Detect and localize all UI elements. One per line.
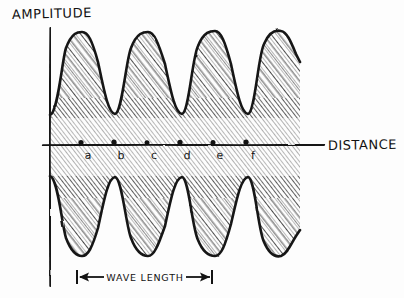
axis-point-dot-c bbox=[145, 140, 150, 145]
lower-wave-shading bbox=[48, 146, 304, 268]
x-axis-line bbox=[43, 145, 324, 146]
axis-point-dot-f bbox=[243, 140, 248, 145]
axis-point-dot-b bbox=[111, 140, 116, 145]
upper-wave-shading bbox=[48, 28, 304, 150]
axis-point-dot-e bbox=[211, 140, 216, 145]
x-axis-label: DISTANCE bbox=[328, 137, 397, 153]
axis-point-dot-a bbox=[78, 140, 83, 145]
wavelength-label: WAVE LENGTH bbox=[106, 272, 183, 283]
y-axis-line bbox=[50, 28, 51, 286]
wave-diagram-canvas: a b c d e f AMPLITUDE DISTANCE WAVE L bbox=[0, 0, 404, 298]
wave-diagram: a b c d e f AMPLITUDE DISTANCE WAVE L bbox=[0, 0, 404, 298]
axis-point-label-a: a bbox=[84, 149, 91, 162]
axis-point-label-e: e bbox=[216, 149, 223, 162]
axis-point-label-b: b bbox=[117, 149, 124, 162]
wavelength-bracket: WAVE LENGTH bbox=[77, 270, 212, 284]
axis-point-dot-d bbox=[177, 140, 182, 145]
axis-point-label-c: c bbox=[151, 149, 157, 162]
y-axis-label: AMPLITUDE bbox=[12, 5, 92, 22]
axis-point-label-d: d bbox=[183, 149, 190, 162]
